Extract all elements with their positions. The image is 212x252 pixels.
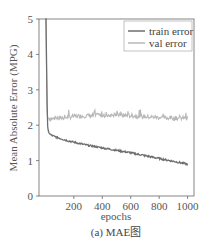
legend-label-train: train error xyxy=(149,25,194,37)
y-tick-label: 2 xyxy=(28,119,34,131)
y-tick-label: 5 xyxy=(28,13,34,25)
x-axis-ticks: 2004006008001000 xyxy=(66,196,200,212)
y-tick-label: 1 xyxy=(28,155,34,167)
y-tick-label: 3 xyxy=(28,84,34,96)
y-tick-label: 4 xyxy=(28,48,34,60)
x-tick-label: 1000 xyxy=(177,200,200,212)
x-tick-label: 800 xyxy=(151,200,168,212)
legend-label-val: val error xyxy=(149,37,187,49)
x-tick-label: 200 xyxy=(66,200,83,212)
figure-caption: (a) MAE图 xyxy=(91,226,141,239)
mae-chart: 012345 2004006008001000 Mean Absolute Er… xyxy=(0,0,212,252)
y-axis-ticks: 012345 xyxy=(28,13,40,202)
y-tick-label: 0 xyxy=(28,190,34,202)
y-axis-title: Mean Absolute Error (MPG) xyxy=(7,44,20,171)
legend: train error val error xyxy=(124,21,194,51)
x-axis-title: epochs xyxy=(101,210,132,222)
